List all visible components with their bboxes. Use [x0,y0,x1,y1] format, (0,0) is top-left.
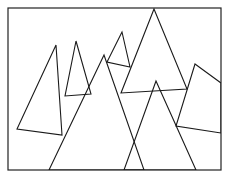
triangle-left-tall [17,45,62,135]
quad-right [176,64,221,133]
frame-border [8,8,221,170]
triangle-large-top [121,9,187,93]
triangle-left-small [65,41,91,96]
triangle-mid-small [107,32,130,67]
shapes-group [17,9,221,170]
triangles-diagram [0,0,228,178]
diagram-canvas [0,0,228,178]
